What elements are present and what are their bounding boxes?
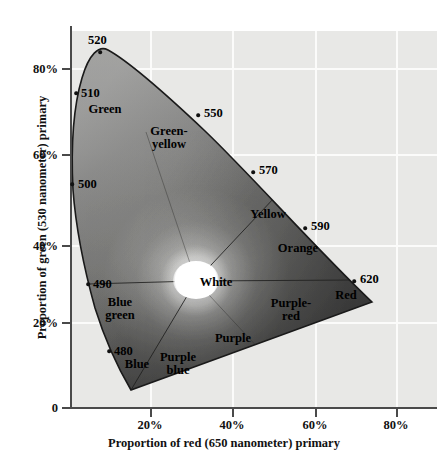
marker-label-570: 570 bbox=[259, 163, 278, 178]
marker-dot-490 bbox=[86, 282, 90, 286]
x-tick-label-40: 40% bbox=[220, 418, 245, 433]
y-axis-label: Proportion of green (530 nanometer) prim… bbox=[35, 88, 50, 348]
marker-label-620: 620 bbox=[360, 272, 379, 287]
x-axis-label: Proportion of red (650 nanometer) primar… bbox=[0, 436, 448, 451]
marker-dot-520 bbox=[98, 50, 102, 54]
x-tick-40 bbox=[232, 409, 234, 417]
y-tick-0 bbox=[62, 407, 70, 409]
marker-dot-570 bbox=[251, 170, 255, 174]
marker-dot-620 bbox=[352, 279, 356, 283]
marker-dot-480 bbox=[107, 349, 111, 353]
marker-label-590: 590 bbox=[311, 219, 330, 234]
x-axis bbox=[70, 407, 437, 409]
marker-dot-510 bbox=[74, 91, 78, 95]
region-label-green-yellow: Green- yellow bbox=[150, 125, 187, 151]
y-tick-60 bbox=[62, 154, 70, 156]
region-label-red: Red bbox=[335, 289, 357, 302]
region-label-white: White bbox=[200, 276, 233, 289]
marker-label-500: 500 bbox=[78, 177, 97, 192]
y-tick-80 bbox=[62, 68, 70, 70]
region-label-orange: Orange bbox=[278, 242, 318, 255]
marker-dot-500 bbox=[70, 182, 74, 186]
chromaticity-figure: 0 20% 40% 60% 80% 20% 40% 60% 80% Propor… bbox=[0, 0, 448, 466]
y-tick-label-0: 0 bbox=[52, 401, 58, 416]
x-tick-label-60: 60% bbox=[303, 418, 328, 433]
marker-dot-590 bbox=[303, 226, 307, 230]
marker-label-520: 520 bbox=[88, 33, 107, 48]
region-label-yellow: Yellow bbox=[250, 208, 285, 221]
region-label-purple-blue: Purple blue bbox=[160, 351, 196, 377]
region-label-purple-red: Purple- red bbox=[271, 297, 311, 323]
marker-label-490: 490 bbox=[93, 277, 112, 292]
x-tick-20 bbox=[150, 409, 152, 417]
x-tick-80 bbox=[396, 409, 398, 417]
x-tick-label-20: 20% bbox=[138, 418, 163, 433]
y-tick-40 bbox=[62, 245, 70, 247]
x-tick-60 bbox=[315, 409, 317, 417]
y-tick-label-80: 80% bbox=[33, 62, 58, 77]
x-tick-label-80: 80% bbox=[384, 418, 409, 433]
marker-label-550: 550 bbox=[204, 106, 223, 121]
marker-label-510: 510 bbox=[81, 86, 100, 101]
marker-dot-550 bbox=[196, 113, 200, 117]
region-label-green: Green bbox=[88, 103, 121, 116]
region-label-blue-green: Blue green bbox=[105, 296, 135, 322]
y-axis bbox=[70, 26, 72, 409]
region-label-blue: Blue bbox=[125, 358, 149, 371]
y-tick-20 bbox=[62, 322, 70, 324]
region-label-purple: Purple bbox=[215, 332, 251, 345]
